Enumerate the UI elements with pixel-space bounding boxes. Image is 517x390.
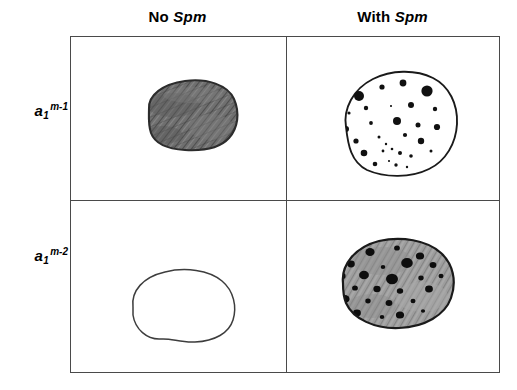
row-label-a1-m1-subscript: 1 xyxy=(43,110,49,121)
column-header-no-spm-prefix: No xyxy=(149,8,169,25)
cell-a1-m1-with-spm xyxy=(287,37,501,200)
row-label-a1-m2-subscript: 1 xyxy=(43,255,49,266)
figure-root: No Spm With Spm a1m-1 a1m-2 xyxy=(0,0,517,390)
cell-a1-m2-no-spm xyxy=(71,201,286,374)
cell-a1-m1-no-spm xyxy=(71,37,286,200)
row-label-a1-m2: a1m-2 xyxy=(14,246,68,266)
column-header-with-spm-prefix: With xyxy=(357,8,390,25)
column-header-with-spm-gene: Spm xyxy=(395,8,428,25)
row-label-a1-m1-superscript: m-1 xyxy=(50,101,68,112)
row-label-a1-m2-superscript: m-2 xyxy=(50,246,68,257)
column-header-no-spm: No Spm xyxy=(70,8,285,25)
cell-a1-m2-with-spm xyxy=(287,201,501,374)
kernel-pigmented-spotted xyxy=(337,231,465,341)
row-label-a1-m1: a1m-1 xyxy=(14,101,68,121)
kernel-pigmented-solid xyxy=(133,75,245,155)
table-frame xyxy=(70,36,500,373)
kernel-colorless-outline xyxy=(123,263,243,349)
row-label-a1-m1-base: a xyxy=(35,102,43,119)
row-label-a1-m2-base: a xyxy=(35,247,43,264)
column-header-no-spm-gene: Spm xyxy=(173,8,206,25)
kernel-spotted-colorless xyxy=(339,61,467,189)
column-header-with-spm: With Spm xyxy=(285,8,500,25)
